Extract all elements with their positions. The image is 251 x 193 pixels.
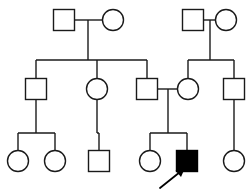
individual-III-2-female-circle[interactable] — [45, 151, 66, 172]
sibship-group-right — [188, 60, 234, 79]
individual-III-3-male-square[interactable] — [89, 151, 110, 172]
individual-II-5-male-square[interactable] — [224, 79, 245, 100]
individual-II-4-female-circle[interactable] — [178, 79, 199, 100]
descent-group-II-2 — [97, 100, 99, 151]
individual-III-6-female-circle[interactable] — [224, 151, 245, 172]
individual-III-1-female-circle[interactable] — [8, 151, 29, 172]
proband-arrow-shaft — [160, 172, 180, 188]
individual-I-3-male-square[interactable] — [183, 10, 204, 31]
individual-I-1-male-square[interactable] — [54, 10, 75, 31]
pedigree-canvas — [0, 0, 251, 193]
descent-group-II-1 — [18, 100, 55, 151]
pedigree-chart: Pedigree Chart Three-generation family p… — [0, 0, 251, 193]
individual-I-2-female-circle[interactable] — [103, 10, 124, 31]
individual-II-2-female-circle[interactable] — [87, 79, 108, 100]
mating-group-I-1-I-2 — [75, 20, 102, 60]
individual-III-4-female-circle[interactable] — [140, 151, 161, 172]
individual-II-3-male-square[interactable] — [137, 79, 158, 100]
mating-group-I-3-I-4 — [204, 20, 215, 60]
individual-II-1-male-square[interactable] — [26, 79, 47, 100]
proband-arrow-icon — [160, 168, 185, 188]
sibship-group-left — [36, 60, 147, 79]
individual-III-5-male-square-affected-proband[interactable] — [177, 151, 198, 172]
individual-I-4-female-circle[interactable] — [216, 10, 237, 31]
